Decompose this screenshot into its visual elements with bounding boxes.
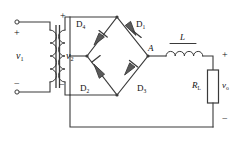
- circuit-schematic-svg: .w { fill:none; stroke:#3a3a3a; stroke-w…: [0, 0, 238, 152]
- primary-top-wire: [19, 22, 50, 30]
- inductor-to-load-wire: [203, 56, 213, 70]
- circuit-diagram-canvas: .w { fill:none; stroke:#3a3a3a; stroke-w…: [0, 0, 238, 152]
- output-minus-sign: −: [222, 114, 228, 124]
- primary-voltage-label: v1: [16, 51, 24, 61]
- diode-D2: [87, 56, 117, 95]
- output-plus-sign: +: [222, 50, 228, 60]
- output-voltage-label: vo: [222, 81, 229, 90]
- bridge-left-node: [85, 54, 88, 57]
- primary-plus-sign: +: [14, 28, 20, 38]
- diode-D4: [87, 17, 117, 56]
- return-rail-wire: [70, 95, 213, 127]
- diode-label-D4: D4: [76, 20, 85, 29]
- diode-label-D3: D3: [137, 84, 146, 93]
- load-resistor-label: RL: [192, 81, 201, 90]
- primary-bottom-wire: [19, 82, 50, 92]
- bridge-top-node: [115, 15, 118, 18]
- secondary-top-lead: [65, 17, 117, 30]
- diode-label-D2: D2: [80, 84, 89, 93]
- primary-minus-sign: −: [14, 79, 20, 89]
- node-label-A: A: [148, 44, 154, 53]
- load-resistor-body: [208, 70, 219, 103]
- secondary-minus-sign: −: [59, 80, 65, 90]
- primary-top-terminal: [15, 20, 19, 24]
- secondary-voltage-label: v2: [66, 51, 74, 61]
- secondary-bottom-lead: [65, 82, 117, 95]
- inductor-label: L: [180, 33, 185, 42]
- bridge-bottom-node: [115, 93, 118, 96]
- primary-bottom-terminal: [15, 90, 19, 94]
- diode-label-D1: D1: [136, 20, 145, 29]
- inductor-L: [166, 44, 203, 57]
- secondary-plus-sign: +: [60, 11, 66, 21]
